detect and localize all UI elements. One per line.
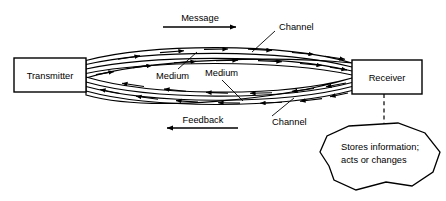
medium-right-label: Medium	[205, 68, 238, 78]
memory-blob-node[interactable]: Stores information; acts or changes	[320, 123, 440, 190]
message-flow: Message	[163, 13, 236, 27]
channel-bottom-label: Channel	[272, 117, 307, 127]
channel-top-annotation: Channel	[252, 22, 314, 52]
feedback-label: Feedback	[183, 115, 224, 125]
transmitter-label: Transmitter	[27, 71, 74, 81]
diagram-canvas: Transmitter Receiver Message Feedback Ch…	[0, 0, 446, 201]
communication-model-diagram: Transmitter Receiver Message Feedback Ch…	[0, 0, 446, 201]
transmitter-node[interactable]: Transmitter	[14, 58, 86, 92]
receiver-node[interactable]: Receiver	[352, 60, 422, 94]
memory-blob-line1: Stores information;	[341, 142, 419, 152]
feedback-flow: Feedback	[167, 115, 238, 128]
message-label: Message	[181, 13, 219, 23]
medium-left-label: Medium	[156, 71, 189, 81]
channel-bottom-leader	[272, 98, 294, 116]
channel-top-label: Channel	[279, 22, 314, 32]
memory-blob-line2: acts or changes	[341, 155, 407, 165]
receiver-label: Receiver	[369, 73, 406, 83]
